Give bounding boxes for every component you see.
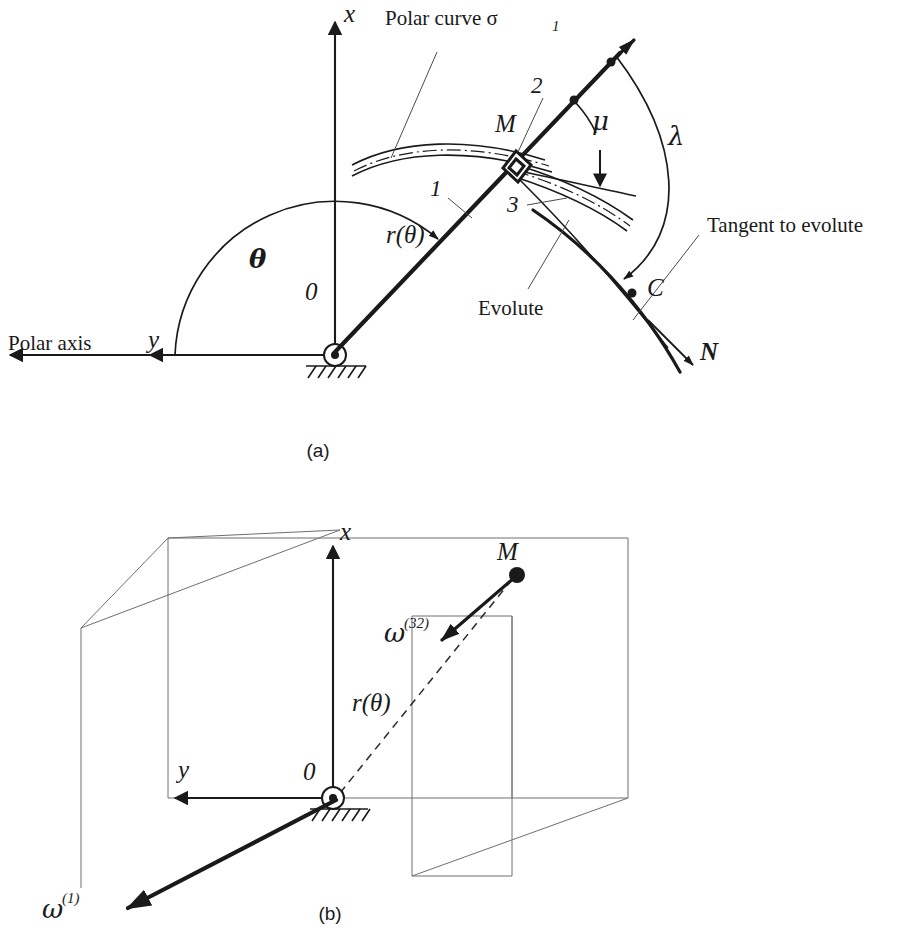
panel-a-radial-link-tip — [612, 40, 634, 61]
panel-a-tangent-leader — [633, 235, 699, 320]
panel-b-right-plane — [412, 616, 512, 876]
panel-a-polar-curve-label: Polar curve σ — [385, 6, 498, 30]
panel-b-front-plane — [168, 538, 628, 798]
panel-a-y-axis-label: y — [145, 326, 160, 353]
panel-a-point-c-label: C — [647, 274, 664, 301]
figure-root: x y 0 Polar axis Polar curve σ 1 θ r(θ) … — [0, 0, 915, 943]
panel-a-normal-line — [520, 180, 668, 348]
panel-a-evolute-leader — [528, 220, 569, 289]
panel-a-caption: (a) — [306, 440, 329, 461]
panel-a-point-c-dot — [628, 289, 637, 298]
panel-b-right-plane-base-diagonal — [412, 798, 628, 876]
panel-b-radius-dashed-line — [340, 577, 514, 793]
panel-b-caption: (b) — [318, 903, 341, 924]
technical-diagram-svg: x y 0 Polar axis Polar curve σ 1 θ r(θ) … — [0, 0, 915, 943]
panel-b-omega-32-superscript: (32) — [404, 615, 429, 632]
panel-b-left-plane-top-edge — [168, 530, 340, 538]
panel-a-link-1-label: 1 — [430, 176, 442, 201]
panel-b-omega-1-superscript: (1) — [62, 890, 80, 907]
panel-a-link-2-label: 2 — [531, 73, 543, 98]
panel-b-omega-1-label: ω — [42, 894, 63, 924]
panel-a-lambda-anchor-dot — [607, 58, 616, 67]
panel-a-origin-label: 0 — [305, 278, 318, 305]
panel-a-radius-label: r(θ) — [386, 221, 425, 249]
panel-a-lambda-arc — [616, 56, 669, 279]
panel-b-omega-32-label: ω — [384, 618, 405, 648]
panel-b-origin-label: 0 — [303, 758, 316, 785]
panel-b-left-plane-edges — [81, 538, 168, 888]
panel-a-x-axis-label: x — [343, 0, 355, 27]
panel-a-lambda-label: λ — [667, 121, 684, 151]
panel-a-theta-label: θ — [249, 244, 267, 274]
panel-a-tangent-label: Tangent to evolute — [707, 213, 863, 237]
panel-a-polar-axis-label: Polar axis — [8, 331, 91, 355]
panel-a-mu-label: μ — [592, 106, 609, 136]
panel-b-omega-32-vector — [442, 578, 514, 640]
panel-a-link-3-label: 3 — [506, 192, 519, 217]
panel-a-ground-hatching — [308, 366, 366, 378]
panel-b-omega-1-vector — [128, 800, 336, 908]
panel-b-group: x y 0 r(θ) M ω (32) ω (1) (b) — [42, 518, 628, 924]
panel-a-polar-curve-leader — [391, 52, 437, 158]
panel-a-evolute-label: Evolute — [478, 296, 543, 320]
panel-b-left-plane-diagonal — [81, 530, 340, 628]
panel-a-link3-leader — [527, 198, 567, 205]
panel-b-y-axis-label: y — [175, 756, 190, 783]
panel-b-radius-label: r(θ) — [352, 689, 391, 717]
panel-a-group: x y 0 Polar axis Polar curve σ 1 θ r(θ) … — [8, 0, 863, 461]
panel-b-ground-hatching — [312, 809, 370, 821]
panel-a-polar-curve-subscript: 1 — [552, 18, 560, 34]
panel-a-normal-label: N — [699, 338, 719, 365]
panel-b-point-m-label: M — [496, 538, 519, 565]
panel-b-x-axis-label: x — [339, 518, 351, 545]
panel-a-point-m-label: M — [494, 110, 517, 137]
panel-a-link1-leader — [448, 198, 472, 218]
